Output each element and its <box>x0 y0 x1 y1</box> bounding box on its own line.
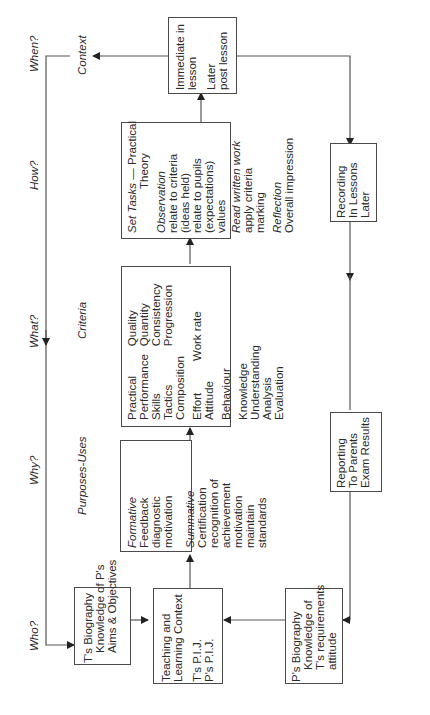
label-why: Why? <box>28 456 41 485</box>
label-what: What? <box>28 315 41 348</box>
reporting-box-text: Reporting To Parents Exam Results <box>335 417 371 488</box>
t-biography-box-text: T's Biography Knowledge of P's Aims & Ob… <box>82 560 118 663</box>
label-when: When? <box>28 36 41 72</box>
recording-box-text: Recording In Lessons Later <box>335 162 371 218</box>
purposes-box-text-2: Summative Certification recognition of a… <box>184 479 268 548</box>
who-loop-arrow <box>46 56 74 645</box>
set-tasks-box-text: Set Tasks — Practical Theory Observation… <box>126 121 227 233</box>
heading-criteria: Criteria <box>76 302 89 339</box>
heading-context: Context <box>76 35 89 75</box>
set-tasks-box-text-2: Read written work apply criteria marking… <box>230 138 295 233</box>
heading-purposes: Purposes-Uses <box>76 436 89 515</box>
criteria-box-text: Practical Performance Skills Tactics Com… <box>126 284 285 420</box>
label-how: How? <box>28 161 41 190</box>
label-who: Who? <box>28 621 41 651</box>
p-biography-box-text: P's Biography Knowledge of T's requireme… <box>290 585 338 682</box>
timing-box-text: Immediate in lesson Later post lesson <box>174 24 229 90</box>
teaching-context-box-text: Teaching and Learning Context T's P.I.J.… <box>160 594 215 682</box>
purposes-box-text: Formative Feedback diagnostic motivation <box>126 496 174 548</box>
